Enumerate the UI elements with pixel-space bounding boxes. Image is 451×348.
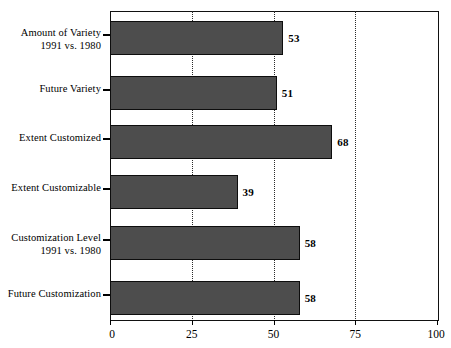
category-label-5: Future Customization bbox=[0, 288, 101, 301]
category-axis-labels: Amount of Variety 1991 vs. 1980 Future V… bbox=[0, 0, 101, 348]
x-tick-75 bbox=[355, 320, 356, 325]
gridline-75 bbox=[355, 11, 356, 319]
category-label-1: Future Variety bbox=[0, 83, 101, 96]
x-tick-100 bbox=[437, 320, 438, 325]
bar-value-3: 39 bbox=[243, 187, 254, 198]
category-label-4: Customization Level 1991 vs. 1980 bbox=[0, 232, 101, 257]
bar-0 bbox=[110, 21, 283, 55]
bar-3 bbox=[110, 175, 238, 209]
bar-value-2: 68 bbox=[337, 137, 348, 148]
category-label-2: Extent Customized bbox=[0, 132, 101, 145]
x-tick-50 bbox=[274, 320, 275, 325]
category-label-0: Amount of Variety 1991 vs. 1980 bbox=[0, 27, 101, 52]
x-axis-label-0: 0 bbox=[109, 328, 115, 340]
gridline-50 bbox=[274, 11, 275, 319]
x-axis-label-50: 50 bbox=[268, 328, 280, 340]
bar-value-0: 53 bbox=[288, 33, 299, 44]
bar-5 bbox=[110, 281, 300, 315]
x-axis-label-75: 75 bbox=[350, 328, 362, 340]
x-tick-25 bbox=[192, 320, 193, 325]
x-axis-label-100: 100 bbox=[427, 328, 444, 340]
bar-chart: Amount of Variety 1991 vs. 1980 Future V… bbox=[0, 0, 451, 348]
bar-value-1: 51 bbox=[282, 88, 293, 99]
category-label-3: Extent Customizable bbox=[0, 182, 101, 195]
plot-area bbox=[110, 11, 437, 319]
bar-2 bbox=[110, 125, 332, 159]
bar-value-5: 58 bbox=[305, 293, 316, 304]
x-tick-0 bbox=[110, 320, 111, 325]
bar-1 bbox=[110, 76, 277, 110]
bar-4 bbox=[110, 226, 300, 260]
gridline-25 bbox=[192, 11, 193, 319]
bar-value-4: 58 bbox=[305, 238, 316, 249]
x-axis-label-25: 25 bbox=[186, 328, 198, 340]
